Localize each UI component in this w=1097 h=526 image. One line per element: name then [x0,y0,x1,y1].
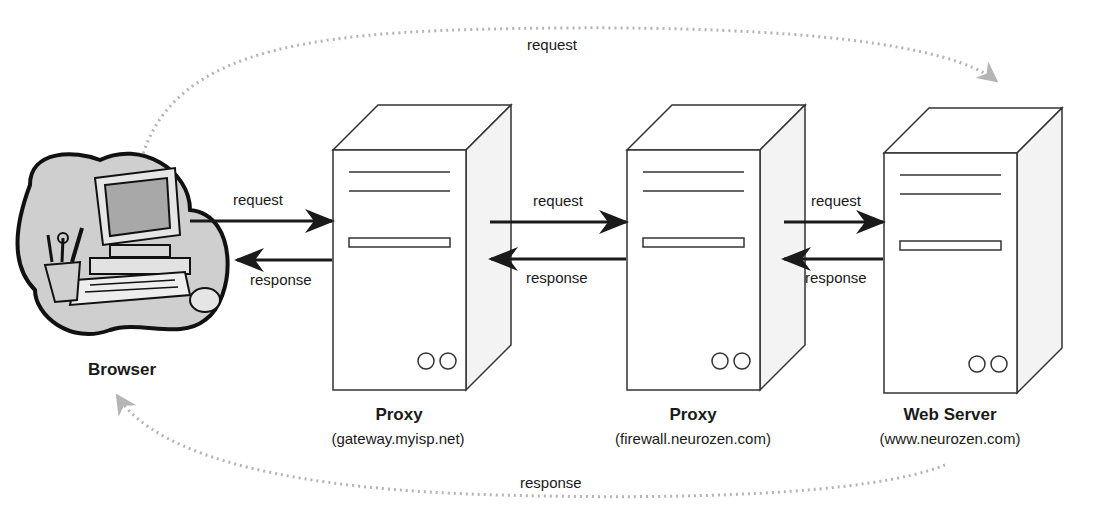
node-title-2: Proxy [669,405,717,424]
node-host-3: (www.neurozen.com) [880,430,1021,447]
server-2 [627,105,805,390]
request-label-2: request [533,192,584,209]
server-1 [333,105,511,390]
response-label-1: response [250,271,312,288]
node-host-2: (firewall.neurozen.com) [615,430,771,447]
node-title-3: Web Server [903,405,997,424]
overall-response-label: response [520,474,582,491]
response-label-2: response [526,269,588,286]
proxy-chain-diagram: request response Browser [0,0,1097,526]
browser-computer-icon [18,154,228,334]
browser-label: Browser [88,360,156,379]
request-label-1: request [233,191,284,208]
server-3 [884,108,1062,393]
request-label-3: request [811,192,862,209]
node-host-1: (gateway.myisp.net) [331,430,464,447]
node-title-1: Proxy [375,405,423,424]
response-label-3: response [805,269,867,286]
overall-request-label: request [527,36,578,53]
